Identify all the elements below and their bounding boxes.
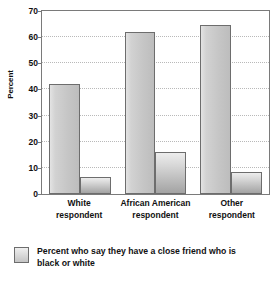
legend-swatch-icon xyxy=(14,247,29,263)
bar-secondary xyxy=(231,172,262,194)
y-tick-label: 50 xyxy=(29,59,38,68)
x-axis-label-line1: African American xyxy=(120,198,190,208)
y-tick-mark xyxy=(38,194,42,195)
bar-primary xyxy=(200,25,231,194)
bar-group xyxy=(125,11,187,194)
x-axis-label-line1: White xyxy=(68,198,91,208)
bar-primary xyxy=(49,84,80,194)
y-tick-label: 40 xyxy=(29,85,38,94)
bar-group xyxy=(200,11,262,194)
legend-label: Percent who say they have a close friend… xyxy=(37,246,255,269)
x-axis-label-line1: Other xyxy=(220,198,243,208)
x-axis-label-line2: respondent xyxy=(187,210,277,222)
legend: Percent who say they have a close friend… xyxy=(14,246,255,269)
y-tick-label: 20 xyxy=(29,137,38,146)
y-tick-label: 0 xyxy=(33,190,38,199)
plot-area: 010203040506070 xyxy=(41,10,270,195)
y-tick-label: 30 xyxy=(29,111,38,120)
y-tick-label: 70 xyxy=(29,7,38,16)
bar-group xyxy=(49,11,111,194)
x-axis-labels: WhiterespondentAfrican Americanresponden… xyxy=(41,198,270,230)
y-tick-label: 60 xyxy=(29,33,38,42)
legend-label-line1: Percent who say they have a close friend… xyxy=(37,246,226,256)
bar-chart: Percent 010203040506070 WhiterespondentA… xyxy=(0,0,279,281)
bar-primary xyxy=(125,32,156,194)
bar-secondary xyxy=(155,152,186,194)
y-tick-label: 10 xyxy=(29,164,38,173)
bar-secondary xyxy=(80,177,111,194)
bars-layer xyxy=(42,11,269,194)
x-axis-label: Otherrespondent xyxy=(187,198,277,221)
y-axis-title: Percent xyxy=(6,55,15,115)
